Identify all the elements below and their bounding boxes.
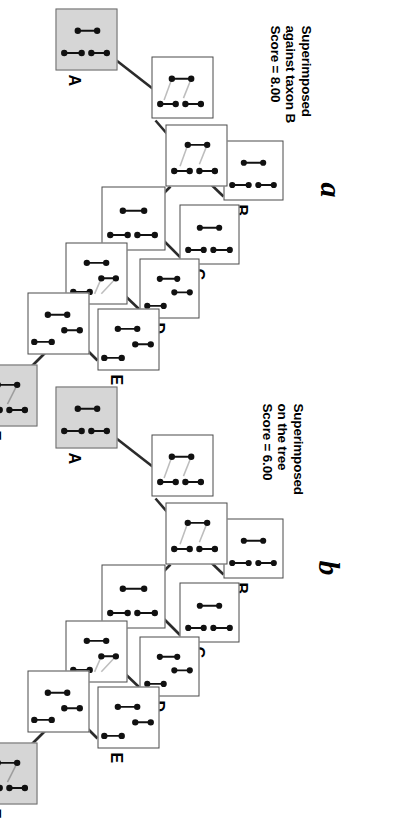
panel-b-label-F: F	[0, 808, 1, 818]
panel-a: A	[0, 0, 413, 377]
landmark-plot	[56, 9, 116, 69]
panel-a-node-A[interactable]	[55, 8, 117, 70]
panel-b-node-A[interactable]	[55, 386, 117, 448]
panel-a-caption-line-1: Superimposed	[298, 25, 314, 123]
panel-a-node-B[interactable]	[223, 140, 283, 200]
panel-a-node-root[interactable]	[151, 56, 213, 118]
panel-b-node-root[interactable]	[151, 434, 213, 496]
panel-a-caption-line-3: Score = 8.00	[267, 25, 283, 123]
panel-b-node-ab[interactable]	[165, 502, 227, 564]
panel-a-caption-line-2: against taxon B	[282, 25, 298, 123]
panel-b-label-E: E	[107, 752, 123, 763]
panel-b-caption: Superimposed on the tree Score = 6.00	[259, 403, 306, 494]
landmark-plot	[98, 687, 158, 747]
panel-b-node-ef[interactable]	[27, 670, 89, 732]
panel-b-caption-line-1: Superimposed	[290, 403, 306, 494]
landmark-plot	[28, 671, 88, 731]
landmark-plot	[224, 519, 282, 577]
panel-b-caption-line-2: on the tree	[274, 403, 290, 494]
panel-a-node-ab[interactable]	[165, 124, 227, 186]
panel-b-label-A: A	[65, 452, 81, 464]
panel-b-node-abc[interactable]	[101, 564, 165, 628]
landmark-plot	[0, 743, 36, 803]
landmark-plot	[28, 293, 88, 353]
landmark-plot	[102, 187, 164, 249]
landmark-plot	[98, 309, 158, 369]
landmark-plot	[166, 503, 226, 563]
landmark-plot	[166, 125, 226, 185]
panel-b-node-F[interactable]	[0, 742, 37, 804]
landmark-plot	[56, 387, 116, 447]
panel-b-letter: b	[313, 560, 343, 575]
landmark-plot	[224, 141, 282, 199]
landmark-plot	[180, 205, 238, 263]
panel-b-node-E[interactable]	[97, 686, 159, 748]
panel-a-node-abc[interactable]	[101, 186, 165, 250]
panel-b-node-C[interactable]	[179, 582, 239, 642]
panel-a-letter: a	[315, 182, 345, 197]
panel-a-label-A: A	[65, 74, 81, 86]
panel-a-caption: Superimposed against taxon B Score = 8.0…	[267, 25, 314, 123]
landmark-plot	[180, 583, 238, 641]
panel-a-node-C[interactable]	[179, 204, 239, 264]
panel-b-caption-line-3: Score = 6.00	[259, 403, 275, 494]
landmark-plot	[102, 565, 164, 627]
panel-a-node-ef[interactable]	[27, 292, 89, 354]
landmark-plot	[152, 57, 212, 117]
panel-a-node-E[interactable]	[97, 308, 159, 370]
panel-b-node-B[interactable]	[223, 518, 283, 578]
landmark-plot	[152, 435, 212, 495]
panel-b: A	[0, 378, 413, 755]
